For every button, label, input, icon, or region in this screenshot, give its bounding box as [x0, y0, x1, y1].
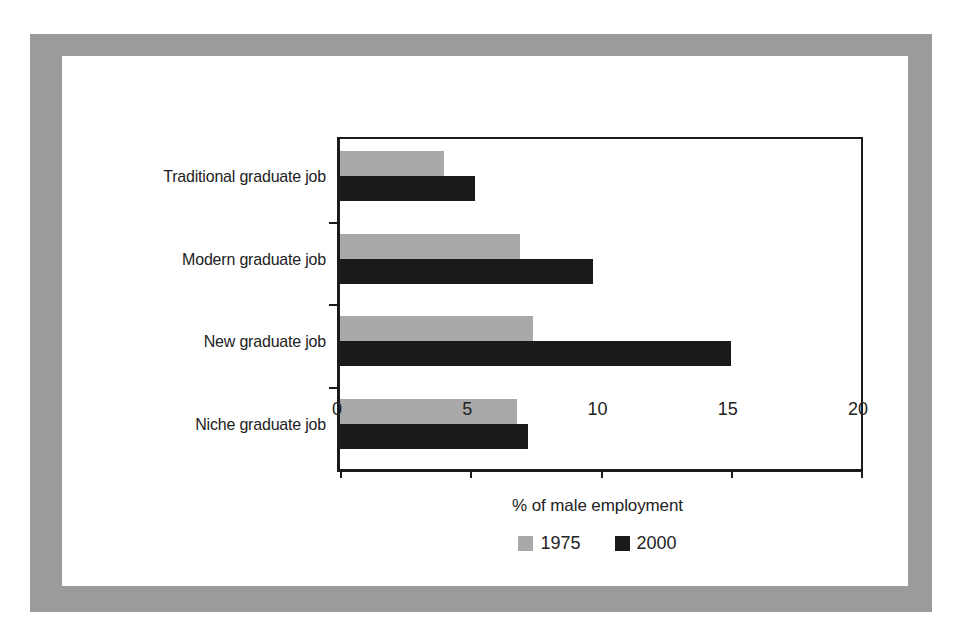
category-label-new-graduate-job: New graduate job — [82, 332, 326, 352]
figure-canvas: Traditional graduate jobModern graduate … — [62, 56, 908, 586]
bar-1975-modern-graduate-job — [340, 234, 520, 259]
x-tick-label-15: 15 — [718, 399, 738, 420]
bar-2000-traditional-graduate-job — [340, 176, 475, 201]
category-tick-2 — [329, 304, 340, 306]
legend-label-2000: 2000 — [637, 534, 677, 552]
x-tick-10 — [601, 469, 603, 478]
figure-frame-border: Traditional graduate jobModern graduate … — [30, 34, 932, 612]
chart-legend: 19752000 — [337, 534, 858, 552]
category-tick-3 — [329, 387, 340, 389]
bar-2000-modern-graduate-job — [340, 259, 593, 284]
bar-1975-new-graduate-job — [340, 316, 533, 341]
figure-root: Traditional graduate jobModern graduate … — [0, 0, 960, 638]
category-label-traditional-graduate-job: Traditional graduate job — [82, 167, 326, 187]
legend-entry-1975: 1975 — [518, 534, 580, 552]
x-tick-5 — [470, 469, 472, 478]
legend-entry-2000: 2000 — [615, 534, 677, 552]
plot-area — [337, 137, 863, 472]
x-tick-15 — [731, 469, 733, 478]
bar-2000-niche-graduate-job — [340, 424, 528, 449]
legend-swatch-2000-icon — [615, 536, 630, 551]
bar-1975-traditional-graduate-job — [340, 151, 444, 176]
category-tick-1 — [329, 222, 340, 224]
x-tick-label-5: 5 — [462, 399, 472, 420]
x-tick-20 — [861, 469, 863, 478]
x-axis-title: % of male employment — [337, 496, 858, 516]
legend-label-1975: 1975 — [540, 534, 580, 552]
bar-2000-new-graduate-job — [340, 341, 731, 366]
x-tick-label-20: 20 — [848, 399, 868, 420]
bar-1975-niche-graduate-job — [340, 399, 517, 424]
category-label-niche-graduate-job: Niche graduate job — [82, 415, 326, 435]
category-axis-labels: Traditional graduate jobModern graduate … — [62, 137, 326, 467]
x-tick-label-10: 10 — [587, 399, 607, 420]
category-label-modern-graduate-job: Modern graduate job — [82, 250, 326, 270]
legend-swatch-1975-icon — [518, 536, 533, 551]
x-tick-label-0: 0 — [332, 399, 342, 420]
x-tick-0 — [340, 469, 342, 478]
